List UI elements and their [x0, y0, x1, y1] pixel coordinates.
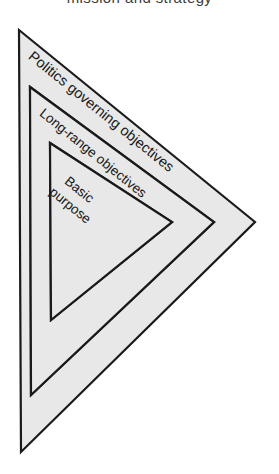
diagram-canvas: Politics governing objectives Long-range… [0, 0, 279, 474]
triangle-hierarchy-diagram: mission and strategy Politics governing … [0, 0, 279, 474]
